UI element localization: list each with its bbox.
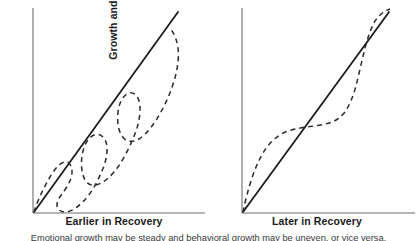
chart-panel-later: Growth and Change Later in Recovery [209, 0, 417, 232]
figure-root: Growth and Change Earlier in Recovery Gr… [0, 0, 417, 241]
chart-svg-later [209, 0, 417, 232]
trend-line-right [243, 12, 389, 212]
y-axis-label-right: Growth and Change [104, 0, 122, 125]
x-axis-label-right: Later in Recovery [209, 215, 417, 227]
x-axis-label-left: Earlier in Recovery [0, 215, 218, 227]
figure-caption: Emotional growth may be steady and behav… [0, 232, 417, 241]
